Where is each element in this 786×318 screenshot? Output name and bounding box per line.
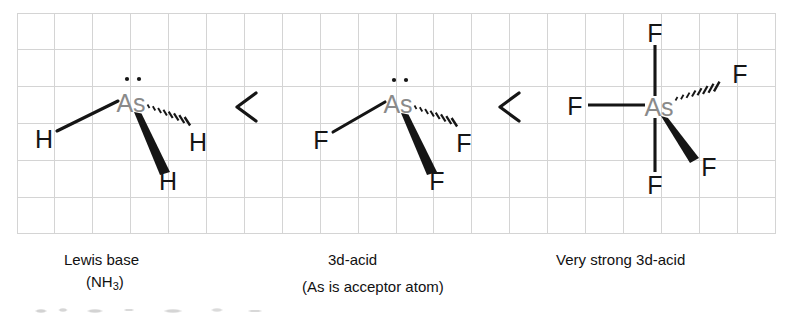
caption-3d-acid: 3d-acid — [328, 250, 377, 269]
molecule-ash3: As H H H — [35, 77, 207, 195]
atom-label-h-ash3-hashed: H — [189, 128, 207, 156]
atom-label-as-asf5: As — [644, 93, 673, 121]
atom-label-f-asf5-left: F — [567, 92, 582, 120]
bond-plain-asf3 — [333, 102, 385, 132]
atom-label-as-asf3: As — [383, 90, 412, 118]
molecule-asf3: As F F F — [313, 78, 471, 195]
caption-acceptor-note: (As is acceptor atom) — [302, 277, 444, 296]
bond-plain-ash3 — [57, 101, 118, 131]
atom-label-f-asf5-hashed: F — [732, 60, 747, 88]
structures-layer: As H H H As — [0, 0, 786, 318]
atom-label-as-ash3: As — [116, 89, 145, 117]
caption-nh3-formula: (NH3) — [86, 272, 124, 296]
less-than-icon-2 — [500, 93, 519, 121]
bond-hashed-asf3 — [415, 106, 458, 127]
lone-pair-dots-asf3 — [392, 78, 408, 82]
bond-wedge-ash3 — [134, 112, 170, 175]
bond-hashed-ash3 — [148, 105, 191, 126]
caption-very-strong-3d-acid: Very strong 3d-acid — [556, 250, 685, 269]
atom-label-f-asf5-bottom: F — [647, 171, 662, 199]
caption-lewis-base: Lewis base — [64, 250, 139, 269]
lone-pair-dots-ash3 — [125, 77, 141, 81]
atom-label-h-ash3-wedge: H — [159, 167, 177, 195]
bond-wedge-asf3 — [401, 113, 437, 175]
less-than-icon-1 — [237, 93, 256, 121]
chemistry-figure: As H H H As — [0, 0, 786, 318]
atom-label-h-ash3-left: H — [35, 125, 53, 153]
bond-hashed-asf5 — [676, 82, 720, 101]
atom-label-f-asf3-left: F — [313, 126, 328, 154]
atom-label-f-asf5-top: F — [647, 19, 662, 47]
atom-label-f-asf3-hashed: F — [456, 129, 471, 157]
nh3-close: ) — [119, 273, 124, 290]
atom-label-f-asf3-wedge: F — [429, 167, 444, 195]
bond-wedge-asf5 — [661, 116, 699, 163]
nh3-open: (NH — [86, 273, 113, 290]
scan-artifact-smudge — [33, 306, 283, 315]
atom-label-f-asf5-wedge: F — [701, 153, 716, 181]
molecule-asf5: As F F F F F — [567, 19, 747, 199]
